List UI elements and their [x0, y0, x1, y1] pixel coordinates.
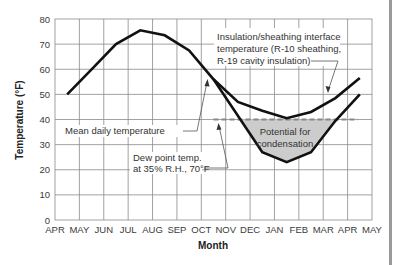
dew-label-line1: Dew point temp. — [133, 152, 202, 163]
dew-label-line2: at 35% R.H., 70°F — [133, 163, 210, 174]
x-tick-label: NOV — [215, 224, 236, 235]
dew-leader — [204, 126, 228, 168]
mean-leader — [183, 82, 207, 131]
x-tick-label: FEB — [290, 224, 308, 235]
x-axis-title: Month — [198, 240, 228, 251]
x-tick-label: APR — [45, 224, 65, 235]
x-tick-label: SEP — [167, 224, 186, 235]
y-tick-label: 30 — [39, 139, 50, 150]
x-tick-label: MAY — [69, 224, 90, 235]
mean-daily-label: Mean daily temperature — [65, 125, 165, 136]
x-axis-ticks: APRMAYJUNJULAUGSEPOCTNOVDECJANFEBMARAPRM… — [45, 224, 382, 235]
potential-label-line1: Potential for — [260, 126, 311, 137]
interface-label-line2: temperature (R-10 sheathing, — [217, 43, 341, 54]
x-tick-label: JUL — [120, 224, 137, 235]
x-tick-label: JAN — [265, 224, 283, 235]
x-tick-label: OCT — [191, 224, 211, 235]
x-tick-label: MAR — [313, 224, 334, 235]
x-tick-label: MAY — [362, 224, 383, 235]
potential-label-line2: condensation — [257, 138, 314, 149]
y-tick-label: 60 — [39, 64, 50, 75]
y-tick-label: 10 — [39, 189, 50, 200]
y-axis-ticks: 01020304050607080 — [39, 14, 50, 226]
page-edge-divider — [389, 0, 392, 265]
interface-label-line3: R-19 cavity insulation) — [217, 55, 310, 66]
y-tick-label: 20 — [39, 164, 50, 175]
mean-arrowhead-icon — [205, 79, 210, 87]
interface-arrowhead-icon — [326, 86, 331, 93]
x-tick-label: DEC — [240, 224, 260, 235]
y-tick-label: 40 — [39, 114, 50, 125]
interface-label-line1: Insulation/sheathing interface — [217, 31, 341, 42]
y-tick-label: 70 — [39, 39, 50, 50]
x-tick-label: JUN — [95, 224, 114, 235]
x-tick-label: AUG — [142, 224, 163, 235]
temperature-chart: 01020304050607080 APRMAYJUNJULAUGSEPOCTN… — [0, 0, 397, 265]
y-axis-title: Temperature (°F) — [14, 80, 25, 159]
y-tick-label: 50 — [39, 89, 50, 100]
x-tick-label: APR — [338, 224, 358, 235]
dew-arrowhead-icon — [217, 123, 222, 130]
y-tick-label: 80 — [39, 14, 50, 25]
